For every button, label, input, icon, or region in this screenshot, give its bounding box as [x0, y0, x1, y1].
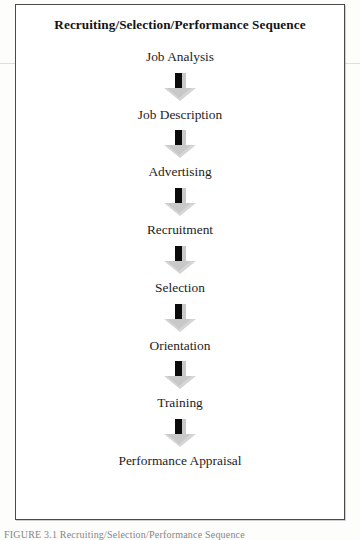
arrow-head-inner [167, 434, 191, 444]
down-block-arrow-icon [163, 360, 197, 390]
stage-label-recruitment: Recruitment [147, 223, 213, 238]
stage-label-selection: Selection [155, 281, 205, 296]
arrow-head-inner [167, 203, 191, 213]
figure-title: Recruiting/Selection/Performance Sequenc… [54, 17, 305, 33]
down-block-arrow-icon [163, 303, 197, 333]
arrow-head-inner [167, 88, 191, 98]
stage-label-training: Training [157, 396, 203, 411]
stage-label-orientation: Orientation [150, 339, 211, 354]
down-block-arrow-icon [163, 187, 197, 217]
down-block-arrow-icon [163, 129, 197, 159]
stage-label-job-analysis: Job Analysis [146, 50, 214, 65]
arrow-head-inner [167, 319, 191, 329]
down-block-arrow-icon [163, 72, 197, 102]
stage-label-advertising: Advertising [148, 165, 211, 180]
flowchart: Recruiting/Selection/Performance Sequenc… [16, 5, 344, 519]
figure-box: Recruiting/Selection/Performance Sequenc… [15, 4, 345, 520]
stage-label-job-description: Job Description [138, 108, 222, 123]
arrow-head-inner [167, 376, 191, 386]
arrow-head-inner [167, 145, 191, 155]
stage-label-performance-appraisal: Performance Appraisal [118, 454, 241, 469]
down-block-arrow-icon [163, 418, 197, 448]
arrow-head-inner [167, 261, 191, 271]
down-block-arrow-icon [163, 245, 197, 275]
figure-caption: FIGURE 3.1 Recruiting/Selection/Performa… [4, 529, 356, 540]
